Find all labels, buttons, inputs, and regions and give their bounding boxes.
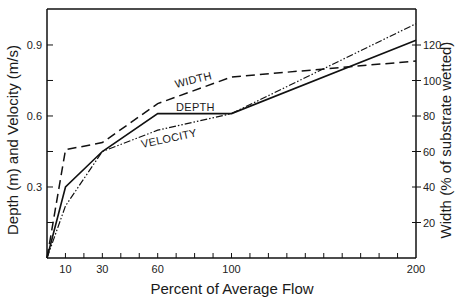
y-left-tick-label: 0.3 — [27, 181, 42, 193]
depth-curve-label: DEPTH — [176, 101, 215, 113]
y-left-axis-title: Depth (m) and Velocity (m/s) — [4, 45, 21, 235]
x-tick-label: 30 — [96, 263, 108, 275]
y-left-tick-label: 0.6 — [27, 110, 42, 122]
velocity-curve — [47, 24, 416, 258]
plot-frame — [47, 9, 416, 258]
width-curve-label: WIDTH — [174, 69, 213, 90]
y-left-axis-ticks: 0.30.60.9 — [27, 39, 53, 223]
y-right-tick-label: 80 — [423, 110, 435, 122]
line-chart: 103060100200 0.30.60.9 20406080100120 WI… — [0, 0, 465, 302]
y-left-tick-label: 0.9 — [27, 39, 42, 51]
x-tick-label: 60 — [152, 263, 164, 275]
y-right-tick-label: 40 — [423, 181, 435, 193]
y-right-tick-label: 20 — [423, 217, 435, 229]
x-tick-label: 10 — [59, 263, 71, 275]
x-tick-label: 100 — [222, 263, 240, 275]
depth-curve — [47, 40, 416, 258]
velocity-curve-label: VELOCITY — [140, 126, 198, 150]
width-curve — [47, 61, 416, 258]
x-axis-tick-labels: 103060100200 — [59, 263, 425, 275]
y-right-tick-label: 60 — [423, 146, 435, 158]
x-axis-title: Percent of Average Flow — [150, 280, 313, 297]
x-tick-label: 200 — [407, 263, 425, 275]
y-right-axis-title: Width (% of substrate wetted) — [437, 42, 454, 239]
